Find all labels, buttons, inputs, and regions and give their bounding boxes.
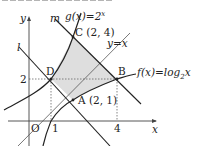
- x-axis-label: x: [152, 123, 158, 135]
- y-axis-label: y: [19, 12, 27, 24]
- x-tick-1: 1: [52, 122, 59, 134]
- graph-figure: y x O 1 4 2 l m g(x)=2x f(x)=log2x y=x C…: [0, 0, 201, 146]
- point-C: [72, 36, 75, 39]
- line-m-label: m: [50, 12, 60, 24]
- point-D: [49, 77, 52, 80]
- point-D-label: D: [46, 65, 54, 77]
- coordinate-plane: y x O 1 4 2 l m g(x)=2x f(x)=log2x y=x C…: [0, 0, 201, 146]
- curve-g-label: g(x)=2x: [65, 10, 105, 22]
- y-axis-arrow: [27, 16, 31, 21]
- point-B: [116, 78, 119, 81]
- point-C-label: C (2, 4): [75, 26, 115, 38]
- line-y-equals-x-label: y=x: [106, 37, 128, 49]
- curve-f-label: f(x)=log2x: [136, 66, 191, 81]
- point-A: [72, 99, 75, 102]
- y-tick-2: 2: [20, 73, 27, 85]
- line-l-label: l: [17, 41, 20, 53]
- point-A-label: A (2, 1): [77, 94, 117, 106]
- cropped-text-remnant: [2, 0, 112, 1]
- x-tick-4: 4: [114, 122, 121, 134]
- point-B-label: B: [118, 65, 126, 77]
- origin-label: O: [31, 122, 40, 134]
